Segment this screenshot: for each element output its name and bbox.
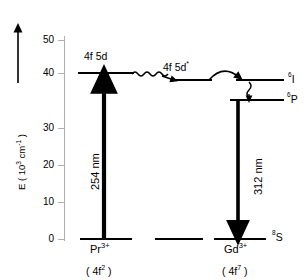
energy-direction-arrow-icon: [0, 0, 308, 280]
energy-level-diagram: 0 10 20 30 40 50 E ( 103 cm-1 ) 4f 5d 4f…: [0, 0, 308, 280]
